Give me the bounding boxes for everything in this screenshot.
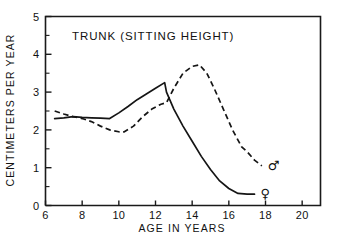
y-ticklabel-1: 1	[33, 162, 39, 174]
growth-velocity-chart: 68101214161820 012345 ♀♂ TRUNK (SITTING …	[0, 0, 339, 244]
y-ticklabel-4: 4	[33, 48, 39, 60]
series-symbol-female: ♀	[261, 186, 271, 201]
y-ticklabel-3: 3	[33, 86, 39, 98]
x-ticklabel-16: 16	[222, 209, 235, 221]
x-ticklabel-14: 14	[186, 209, 199, 221]
chart-title: TRUNK (SITTING HEIGHT)	[72, 30, 234, 42]
x-ticklabel-20: 20	[296, 209, 309, 221]
y-ticklabel-2: 2	[33, 124, 39, 136]
x-ticklabel-10: 10	[112, 209, 125, 221]
x-ticklabel-8: 8	[79, 209, 85, 221]
x-ticklabel-6: 6	[42, 209, 48, 221]
chart-figure: 68101214161820 012345 ♀♂ TRUNK (SITTING …	[0, 0, 339, 244]
y-axis-title: CENTIMETERS PER YEAR	[4, 33, 16, 186]
y-ticklabel-0: 0	[33, 200, 39, 212]
series-symbol-male: ♂	[268, 158, 280, 173]
y-ticklabel-5: 5	[33, 11, 39, 23]
x-ticklabel-18: 18	[259, 209, 272, 221]
x-ticklabel-12: 12	[149, 209, 162, 221]
x-axis-title: AGE IN YEARS	[138, 222, 225, 234]
